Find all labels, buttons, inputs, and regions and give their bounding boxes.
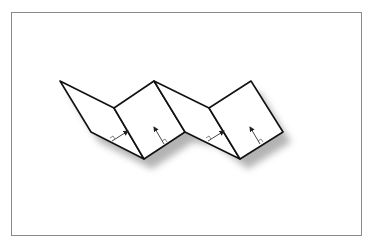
folded-strip-diagram [0,0,374,247]
